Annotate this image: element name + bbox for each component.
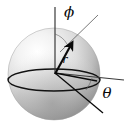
radius-label: r: [62, 53, 68, 66]
theta-label: θ: [102, 84, 111, 102]
spherical-coordinate-figure: ϕ θ r: [0, 0, 127, 128]
figure-canvas: ϕ θ r: [0, 0, 127, 128]
sphere-bottom-shadow: [8, 28, 100, 120]
phi-label: ϕ: [64, 3, 74, 21]
